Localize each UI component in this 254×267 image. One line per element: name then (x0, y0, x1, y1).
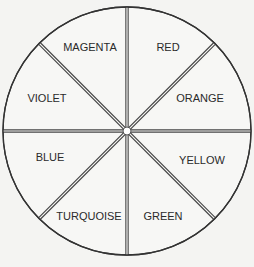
segment-label-orange: ORANGE (176, 92, 224, 104)
segment-label-green: GREEN (143, 210, 182, 222)
segment-label-magenta: MAGENTA (63, 41, 117, 53)
segment-label-violet: VIOLET (27, 92, 66, 104)
segment-label-turquoise: TURQUOISE (56, 210, 121, 222)
segment-label-blue: BLUE (36, 151, 65, 163)
segment-label-yellow: YELLOW (179, 154, 225, 166)
color-wheel-diagram: RED ORANGE YELLOW GREEN TURQUOISE BLUE V… (0, 0, 254, 267)
segment-label-red: RED (156, 41, 179, 53)
center-hub (123, 127, 131, 135)
